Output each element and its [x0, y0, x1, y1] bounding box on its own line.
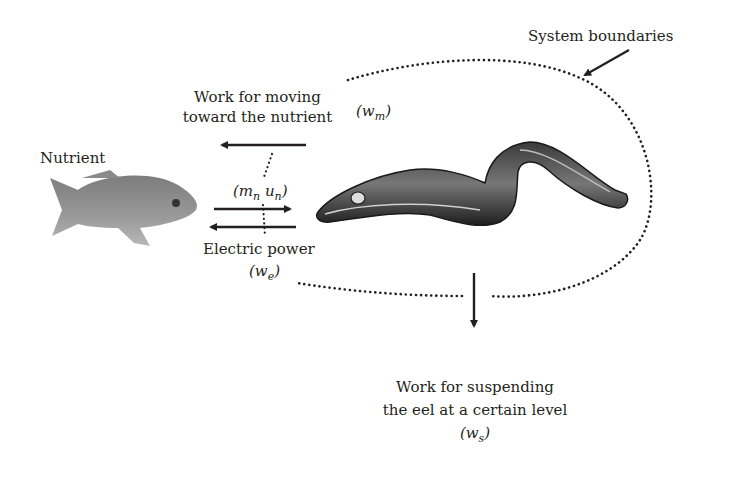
system-boundaries-pointer-arrow — [585, 50, 629, 75]
nutrient-fish-illustration — [50, 170, 197, 246]
diagram-canvas: System boundaries Work for moving toward… — [0, 0, 736, 477]
work-moving-label-line1: Work for moving — [170, 88, 345, 107]
w-m-symbol: (wm) — [356, 102, 391, 126]
work-suspending-label-line2: the eel at a certain level — [350, 401, 600, 420]
electric-power-label: Electric power — [203, 240, 315, 259]
w-e-symbol: (we) — [249, 262, 280, 286]
electric-eel-illustration — [317, 142, 628, 225]
w-s-symbol: (ws) — [440, 424, 510, 448]
nutrient-label: Nutrient — [40, 149, 105, 168]
mass-flow-symbol: (mn un) — [233, 182, 288, 206]
system-boundaries-label: System boundaries — [528, 27, 673, 46]
work-moving-label-line2: toward the nutrient — [170, 108, 345, 127]
work-suspending-label-line1: Work for suspending — [370, 378, 580, 397]
